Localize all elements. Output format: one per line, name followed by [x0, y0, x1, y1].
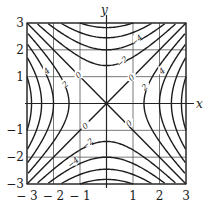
x-tick-label: 3 — [182, 189, 190, 203]
contour-plot-svg: 00002424−2−4−2−4 − 3− 2− 1123−3−2−1123 x… — [0, 0, 210, 211]
contour-plot: 00002424−2−4−2−4 − 3− 2− 1123−3−2−1123 x… — [0, 0, 210, 211]
x-tick-label: − 3 — [16, 189, 38, 203]
x-tick-label: 2 — [156, 189, 164, 203]
y-tick-label: −3 — [6, 177, 24, 191]
y-tick-label: −1 — [6, 123, 24, 137]
x-tick-label: − 1 — [69, 189, 91, 203]
y-tick-label: −2 — [6, 150, 24, 164]
y-axis-label: y — [100, 3, 108, 17]
x-tick-label: − 2 — [43, 189, 65, 203]
y-tick-label: 1 — [16, 70, 24, 84]
x-axis-label: x — [196, 97, 203, 111]
x-tick-label: 1 — [129, 189, 137, 203]
contour-label: −2 — [115, 55, 130, 69]
tick-labels: − 3− 2− 1123−3−2−1123 — [6, 16, 190, 203]
contour-label: −4 — [130, 33, 145, 47]
y-tick-label: 3 — [16, 16, 24, 30]
y-tick-label: 2 — [16, 43, 24, 57]
